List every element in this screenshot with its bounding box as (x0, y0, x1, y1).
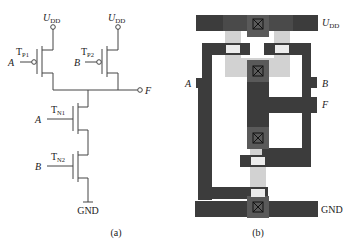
nand-gate-figure: UDD UDD TP1 A TP2 B F TN1 A TN2 B GND (a… (0, 0, 352, 248)
tp2-gate-label: B (74, 57, 80, 68)
pmos-tp2 (85, 29, 118, 90)
udd-terminal-left (51, 25, 56, 30)
caption-a: (a) (110, 227, 121, 239)
udd-contact-tab (247, 15, 269, 37)
udd-label-left: UDD (43, 12, 60, 25)
tn1-gate-label: A (34, 114, 42, 125)
output-label: F (144, 85, 152, 96)
output-terminal (138, 88, 143, 93)
layout-udd-label: UDD (322, 17, 339, 30)
nmos-gate-window-a (251, 189, 265, 197)
pmos-tp1 (20, 29, 53, 90)
tn1-label: TN1 (51, 104, 65, 116)
pmos-gate-window-left (226, 45, 240, 53)
udd-label-right: UDD (108, 12, 125, 25)
tp1-gate-label: A (7, 57, 15, 68)
nmos-gate-b-drop (302, 148, 311, 167)
tn2-gate-label: B (35, 161, 41, 172)
pmos-gate-window-right (275, 45, 289, 53)
caption-b: (b) (252, 227, 264, 239)
tn2-label: TN2 (51, 151, 65, 163)
nmos-gate-b-bar (240, 155, 311, 167)
udd-terminal-right (116, 25, 121, 30)
nmos-gate-window-b (251, 157, 265, 165)
ground-label: GND (77, 205, 99, 216)
layout-gnd-label: GND (321, 204, 343, 215)
layout-output-label: F (321, 99, 329, 110)
schematic-labels: UDD UDD TP1 A TP2 B F TN1 A TN2 B GND (a… (7, 12, 152, 239)
cmos-layout (195, 15, 318, 218)
tp2-label: TP2 (81, 46, 94, 58)
layout-input-b-label: B (322, 78, 328, 89)
nmos-tn1 (47, 90, 88, 152)
tp1-label: TP1 (16, 46, 29, 58)
layout-input-a-label: A (184, 78, 192, 89)
